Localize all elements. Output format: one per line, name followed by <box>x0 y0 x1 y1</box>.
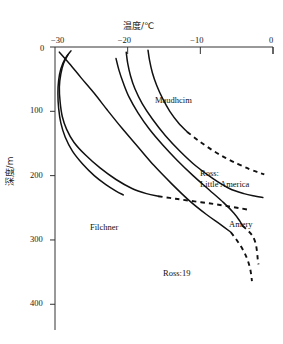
curve-label-ross19: Ross:19 <box>163 268 190 279</box>
curve-label-maudhcim: Maudhcim <box>155 95 192 106</box>
plot-area <box>0 0 283 344</box>
curve-label-ross-little-america-line1: Ross: <box>200 168 219 179</box>
tick-marks <box>50 47 273 304</box>
curve-label-filchner: Filchner <box>90 222 118 233</box>
data-curves <box>58 50 264 281</box>
antarctic-ice-temperature-depth-chart: 温度/℃ 深度/m −30 −20 −10 0 0 100 200 300 40… <box>0 0 283 344</box>
curve-label-amery: Amery <box>229 219 253 230</box>
curve-label-ross-little-america-line2: Little America <box>200 179 249 190</box>
